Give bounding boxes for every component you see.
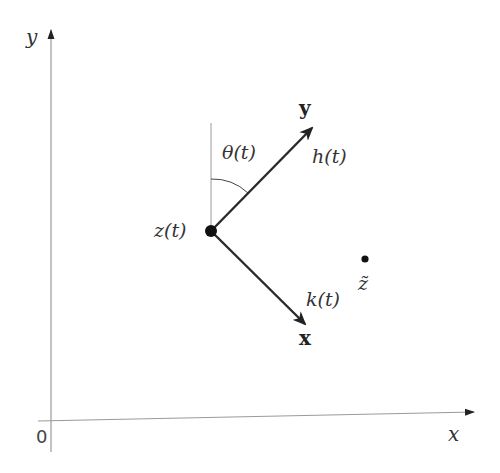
- point-z-tilde-label: z̃: [357, 272, 369, 294]
- angle-label: θ(t): [222, 141, 256, 163]
- diagram-svg: y x 0 θ(t) y h(t) x k(t) z(t) z̃: [0, 0, 500, 473]
- x-axis-label: x: [448, 422, 459, 446]
- vector-x-magnitude-label: k(t): [306, 288, 340, 310]
- point-z-tilde: [361, 255, 368, 262]
- x-axis: [38, 412, 474, 421]
- vector-y-magnitude-label: h(t): [312, 145, 347, 167]
- frame-diagram: y x 0 θ(t) y h(t) x k(t) z(t) z̃: [0, 0, 500, 473]
- y-axis-label: y: [25, 25, 38, 49]
- axes: y x 0: [25, 25, 474, 452]
- origin-label: 0: [36, 426, 47, 447]
- point-z: [205, 225, 217, 237]
- vector-x-arrow: [211, 231, 305, 324]
- point-z-label: z(t): [153, 219, 186, 241]
- vector-y-label: y: [298, 96, 312, 120]
- angle-arc: [211, 179, 248, 193]
- vector-x-label: x: [299, 326, 312, 350]
